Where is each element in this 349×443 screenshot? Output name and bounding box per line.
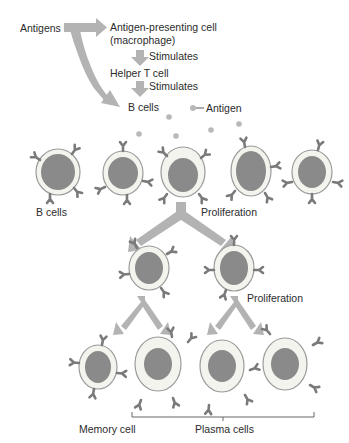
helper-t-cell-label: Helper T cell bbox=[110, 67, 169, 79]
stimulates-label-1: Stimulates bbox=[149, 50, 198, 62]
b-cell-4 bbox=[227, 138, 280, 203]
antigen-legend-icon bbox=[190, 105, 204, 111]
b-cell-3-activated bbox=[159, 147, 210, 203]
memory-cell bbox=[70, 336, 126, 399]
plasma-cell-2 bbox=[200, 340, 244, 392]
b-cells-label: B cells bbox=[36, 206, 67, 218]
memory-cell-label: Memory cell bbox=[79, 423, 136, 435]
plasma-cells-bracket bbox=[132, 412, 314, 421]
b-cell-1 bbox=[31, 145, 82, 203]
b-cells-flow-label: B cells bbox=[128, 101, 159, 113]
b-cell-5 bbox=[283, 141, 343, 203]
apc-label: Antigen-presenting cell bbox=[110, 21, 217, 33]
antigen-legend-label: Antigen bbox=[206, 102, 242, 114]
macrophage-label: (macrophage) bbox=[110, 34, 175, 46]
b-cell-2 bbox=[96, 142, 153, 204]
plasma-cell-1 bbox=[135, 337, 181, 391]
b-cell-activation-diagram bbox=[0, 0, 349, 443]
stimulates-label-2: Stimulates bbox=[149, 80, 198, 92]
plasma-cells-label: Plasma cells bbox=[195, 423, 254, 435]
antigens-label: Antigens bbox=[20, 22, 61, 34]
proliferation-label-2: Proliferation bbox=[247, 292, 303, 304]
daughter-cell-left bbox=[120, 239, 177, 297]
plasma-cell-3 bbox=[263, 338, 307, 390]
daughter-cell-right bbox=[205, 236, 263, 299]
proliferation-label-1: Proliferation bbox=[201, 206, 257, 218]
